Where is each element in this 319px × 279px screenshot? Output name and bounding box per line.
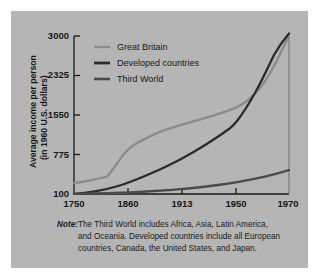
y-tick-label-3000: 3000 [48, 30, 69, 41]
y-axis-tick-labels: 3000 2325 1550 775 100 [48, 30, 70, 199]
chart-note: Note: The Third World includes Africa, A… [57, 220, 281, 253]
x-axis-tick-labels: 1750 1860 1913 1950 1970 [63, 198, 298, 209]
y-axis-title: Average income per person (in 1960 U.S. … [28, 55, 49, 168]
legend-label-third-world: Third World [117, 74, 163, 84]
note-line-3: countries, Canada, the United States, an… [78, 244, 257, 253]
legend: Great Britain Developed countries Third … [94, 42, 200, 84]
y-axis-title-line1: Average income per person [28, 55, 38, 168]
x-tick-label-1913: 1913 [171, 198, 192, 209]
x-tick-label-1970: 1970 [277, 198, 298, 209]
note-prefix: Note: [57, 220, 78, 229]
x-tick-label-1750: 1750 [63, 198, 84, 209]
x-tick-label-1860: 1860 [117, 198, 138, 209]
y-tick-label-2325: 2325 [48, 69, 70, 80]
x-tick-label-1950: 1950 [225, 198, 246, 209]
y-axis-ticks [74, 36, 80, 194]
income-line-chart: Average income per person (in 1960 U.S. … [0, 0, 319, 279]
note-line-2: and Oceania. Developed countries include… [78, 232, 281, 241]
figure-container: Average income per person (in 1960 U.S. … [0, 0, 319, 279]
legend-label-great-britain: Great Britain [117, 42, 168, 52]
legend-label-developed-countries: Developed countries [117, 58, 200, 68]
y-tick-label-775: 775 [53, 149, 70, 160]
note-line-1: The Third World includes Africa, Asia, L… [78, 220, 268, 229]
y-tick-label-1550: 1550 [48, 109, 69, 120]
